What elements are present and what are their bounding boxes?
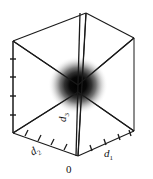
edge-top-apex-to-top-right xyxy=(86,13,134,38)
axis-label-d1: d1 xyxy=(104,148,113,162)
figure-3d-cube-density-plot: d1 d2 d3 0 xyxy=(0,0,153,179)
tick-d2-4 xyxy=(64,144,67,150)
tick-d2-3 xyxy=(51,139,54,145)
edge-origin-to-front-left xyxy=(13,133,78,156)
axis-label-d3: d3 xyxy=(57,113,71,122)
edge-top-apex-to-top-left xyxy=(13,13,86,41)
cube-wireframe-svg xyxy=(0,0,153,179)
tick-d2-1 xyxy=(25,130,28,136)
origin-label: 0 xyxy=(66,164,72,175)
tick-d2-2 xyxy=(38,135,41,141)
